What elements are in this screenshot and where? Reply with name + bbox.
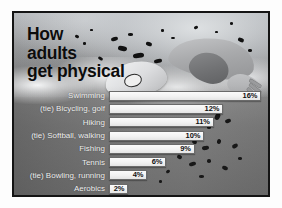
bar-track: 12% — [109, 102, 268, 115]
bar: 6% — [109, 157, 166, 167]
category-label: Tennis — [14, 158, 109, 167]
chart-row: (tie) Bicycling, golf12% — [14, 102, 268, 115]
bar-track: 6% — [109, 155, 268, 168]
chart-row: Hiking11% — [14, 116, 268, 129]
chart-frame: How adults get physical Swimming16%(tie)… — [12, 11, 270, 197]
bar-value-label: 9% — [180, 145, 193, 153]
bar-value-label: 10% — [185, 132, 203, 140]
bar: 16% — [109, 91, 261, 101]
bar-value-label: 16% — [242, 92, 260, 100]
chart-row: Tennis6% — [14, 155, 268, 168]
bar-chart: Swimming16%(tie) Bicycling, golf12%Hikin… — [14, 89, 268, 195]
bar: 10% — [109, 131, 204, 141]
bar: 11% — [109, 117, 214, 127]
category-label: Hiking — [14, 118, 109, 127]
bar-value-label: 11% — [195, 118, 212, 126]
chart-row: (tie) Softball, walking10% — [14, 129, 268, 142]
bar: 2% — [109, 184, 128, 194]
infographic-card: How adults get physical Swimming16%(tie)… — [0, 0, 282, 208]
category-label: (tie) Bicycling, golf — [14, 104, 109, 113]
bar-value-label: 4% — [133, 171, 146, 179]
bar-track: 16% — [109, 89, 268, 102]
bar: 9% — [109, 144, 195, 154]
bar: 4% — [109, 170, 147, 180]
bar-track: 10% — [109, 129, 268, 142]
category-label: Aerobics — [14, 184, 109, 193]
chart-row: Fishing9% — [14, 142, 268, 155]
bar-value-label: 12% — [204, 105, 222, 113]
bar: 12% — [109, 104, 223, 114]
category-label: (tie) Softball, walking — [14, 131, 109, 140]
bar-track: 9% — [109, 142, 268, 155]
bar-track: 4% — [109, 169, 268, 182]
page-title: How adults get physical — [27, 25, 125, 81]
bar-value-label: 6% — [152, 158, 165, 166]
category-label: Swimming — [14, 91, 109, 100]
bar-track: 2% — [109, 182, 268, 195]
category-label: (tie) Bowling, running — [14, 171, 109, 180]
bar-value-label: 2% — [114, 185, 127, 193]
chart-row: Aerobics2% — [14, 182, 268, 195]
chart-row: Swimming16% — [14, 89, 268, 102]
chart-row: (tie) Bowling, running4% — [14, 169, 268, 182]
category-label: Fishing — [14, 144, 109, 153]
bar-track: 11% — [109, 116, 268, 129]
